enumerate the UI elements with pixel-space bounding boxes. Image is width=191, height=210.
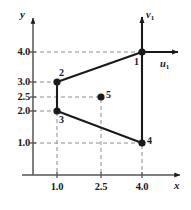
y-tick-label-1.0: 1.0 [1,138,30,149]
y-tick-label-2.0: 2.0 [1,106,30,117]
node-label-3: 3 [59,115,64,125]
dof-label-v1-base: v [146,9,151,20]
dof-label-u1: u1 [160,59,169,70]
node-marker-5 [97,93,104,100]
dof-label-u1-base: u [160,58,166,69]
x-tick-label-4.0: 4.0 [125,182,159,193]
edge-1-2 [57,52,142,82]
node-marker-4 [138,139,145,146]
x-axis-label: x [174,180,180,191]
node-label-5: 5 [106,90,111,100]
dof-label-u1-sub: 1 [166,63,170,71]
y-tick-label-4.0: 4.0 [1,47,30,58]
y-axis-label: y [20,9,25,20]
dof-arrows [142,17,178,52]
node-markers [53,48,145,146]
x-tick-label-1.0: 1.0 [40,182,74,193]
edge-3-4 [57,111,142,143]
x-tick-label-2.5: 2.5 [84,182,118,193]
node-marker-2 [53,78,60,85]
node-label-2: 2 [59,68,64,78]
node-label-1: 1 [134,57,139,67]
node-marker-1 [138,48,145,55]
dof-label-v1-sub: 1 [151,14,155,22]
dof-label-v1: v1 [146,10,154,21]
y-tick-label-2.5: 2.5 [1,92,30,103]
y-tick-label-3.0: 3.0 [1,77,30,88]
element-geometry-figure: 4.0 3.0 2.5 2.0 1.0 1.0 2.5 4.0 y x v1 u… [0,0,191,210]
node-label-4: 4 [147,136,152,146]
